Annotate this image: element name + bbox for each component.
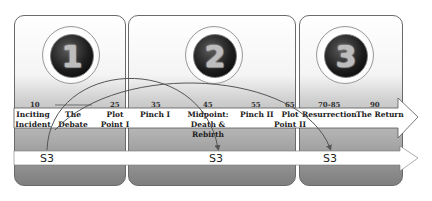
s3-marker-act-2: S3: [209, 152, 223, 165]
s3-marker-act-3: S3: [323, 152, 337, 165]
curve-s3-to-act3: [55, 83, 330, 148]
s3-marker-act-1: S3: [40, 152, 54, 165]
connection-curves: [0, 0, 432, 201]
